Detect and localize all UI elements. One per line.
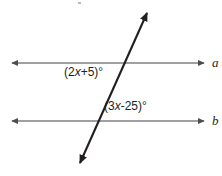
scan-artifact-speck [78,2,81,4]
line-label-b: b [212,114,219,127]
angle-label-top-suffix: +5)° [81,65,103,79]
angle-label-bottom-prefix: (3 [104,99,115,113]
diagram-canvas [0,0,222,176]
angle-label-top: (2x+5)° [64,66,103,78]
line-label-a: a [212,56,219,69]
angle-label-bottom-suffix: -25)° [121,99,147,113]
transversal-line [80,13,147,163]
angle-label-bottom: (3x-25)° [104,100,147,112]
geometry-diagram: (2x+5)° (3x-25)° a b [0,0,222,176]
angle-label-top-prefix: (2 [64,65,75,79]
